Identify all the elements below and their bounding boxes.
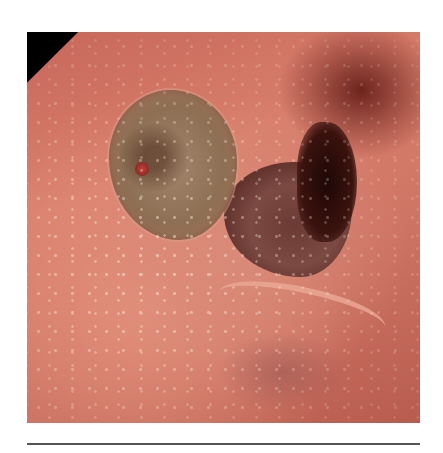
endoscopic-view bbox=[27, 32, 420, 423]
light-reflections bbox=[27, 32, 420, 423]
endoscopy-image bbox=[27, 32, 420, 423]
divider-rule bbox=[27, 443, 420, 445]
